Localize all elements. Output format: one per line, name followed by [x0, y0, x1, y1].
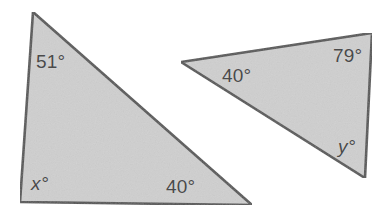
angle-label-right-left: 40°: [222, 66, 251, 85]
angle-label-right-bottom: y°: [338, 137, 356, 156]
left-triangle-shape: [20, 12, 252, 205]
angle-label-left-top: 51°: [36, 52, 65, 71]
geometry-figure: 51° x° 40° 40° 79° y°: [0, 0, 387, 218]
angle-label-right-top: 79°: [333, 46, 362, 65]
angle-label-left-bottom-right: 40°: [166, 177, 195, 196]
angle-label-left-bottom-left: x°: [31, 174, 49, 193]
